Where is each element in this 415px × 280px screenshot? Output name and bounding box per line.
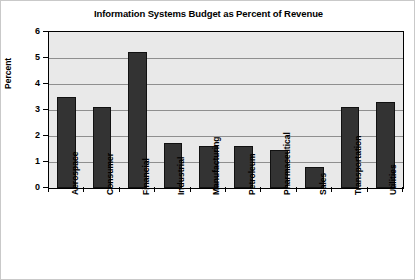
gridline — [49, 84, 403, 85]
y-tick-label: 5 — [10, 52, 40, 62]
y-tick-label: 2 — [10, 130, 40, 140]
y-tick-label: 4 — [10, 78, 40, 88]
x-tick-label: Industrial — [176, 157, 186, 195]
plot-area — [48, 31, 404, 189]
bar-chart-figure: Information Systems Budget as Percent of… — [0, 0, 415, 280]
x-tick-mark — [190, 187, 191, 192]
x-tick-mark — [48, 187, 49, 192]
x-tick-mark — [296, 187, 297, 192]
x-tick-mark — [154, 187, 155, 192]
y-tick-label: 6 — [10, 26, 40, 36]
y-tick-label: 3 — [10, 104, 40, 114]
x-tick-label: Sales — [318, 173, 328, 195]
x-tick-mark — [119, 187, 120, 192]
x-tick-label: Pharmaceutical — [282, 132, 292, 195]
x-tick-label: Financial — [141, 158, 151, 195]
x-tick-label: Aerospace — [70, 152, 80, 195]
chart-title: Information Systems Budget as Percent of… — [1, 8, 415, 19]
x-tick-mark — [225, 187, 226, 192]
x-tick-label: Transportation — [353, 135, 363, 195]
gridline — [49, 58, 403, 59]
x-tick-mark — [367, 187, 368, 192]
x-tick-label: Petroleum — [247, 153, 257, 195]
x-tick-label: Utilities — [388, 164, 398, 195]
x-tick-mark — [402, 187, 403, 192]
x-tick-mark — [260, 187, 261, 192]
x-tick-label: Manufacturing — [211, 136, 221, 195]
y-tick-label: 1 — [10, 156, 40, 166]
x-tick-mark — [331, 187, 332, 192]
x-tick-label: Consumer — [105, 153, 115, 195]
x-tick-mark — [83, 187, 84, 192]
y-tick-label: 0 — [10, 182, 40, 192]
